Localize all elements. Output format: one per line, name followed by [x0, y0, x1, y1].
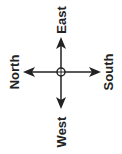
- label-left: North: [7, 55, 22, 90]
- label-top: East: [54, 6, 69, 34]
- compass-rose: East North South West: [0, 0, 122, 154]
- label-right: South: [101, 54, 116, 91]
- compass-diagram: East North South West: [0, 0, 122, 154]
- label-bottom: West: [54, 116, 69, 147]
